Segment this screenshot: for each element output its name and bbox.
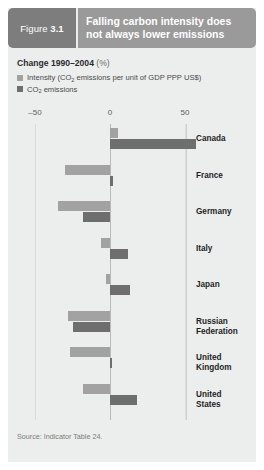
x-axis-tick-labels: –50050	[0, 108, 264, 120]
legend-swatch-co2-icon	[17, 86, 23, 92]
gridline-0	[35, 124, 36, 420]
bar-intensity	[110, 128, 118, 138]
bar-intensity	[106, 274, 111, 284]
bar-intensity	[83, 384, 110, 394]
category-label: France	[196, 171, 223, 181]
figure-tag-prefix: Figure	[20, 23, 48, 34]
zero-line	[110, 124, 111, 420]
figure-header: Figure 3.1 Falling carbon intensity does…	[8, 8, 256, 48]
chart-plot-area: CanadaFranceGermanyItalyJapanRussianFede…	[0, 124, 264, 420]
category-label: Italy	[196, 244, 212, 254]
bar-co2	[110, 249, 128, 259]
category-label: UnitedStates	[196, 390, 221, 410]
bar-intensity	[58, 201, 111, 211]
bar-co2	[83, 212, 110, 222]
bar-co2	[110, 139, 196, 149]
legend-title: Change 1990–2004 (%)	[17, 58, 249, 68]
figure-tag-number: 3.1	[50, 23, 64, 34]
x-axis-tick-2: 50	[181, 108, 190, 117]
category-label: RussianFederation	[196, 317, 238, 337]
legend-label-intensity: Intensity (CO2 emissions per unit of GDP…	[27, 73, 201, 82]
bar-co2	[110, 358, 112, 368]
category-label: Canada	[196, 134, 226, 144]
bar-co2	[110, 285, 130, 295]
x-axis-tick-1: 0	[108, 108, 112, 117]
figure-page: Figure 3.1 Falling carbon intensity does…	[0, 0, 264, 470]
source-note: Source: Indicator Table 24.	[17, 432, 102, 441]
legend-swatch-intensity-icon	[17, 75, 23, 81]
bar-co2	[110, 176, 113, 186]
x-axis-tick-0: –50	[28, 108, 41, 117]
bar-intensity	[101, 238, 110, 248]
legend-title-main: Change 1990–2004	[17, 58, 94, 68]
gridline-2	[185, 124, 186, 420]
legend-item-intensity: Intensity (CO2 emissions per unit of GDP…	[17, 73, 249, 82]
legend-title-unit: (%)	[96, 58, 109, 68]
category-label: Germany	[196, 207, 232, 217]
figure-title: Falling carbon intensity does not always…	[78, 8, 256, 48]
bar-co2	[110, 395, 137, 405]
legend-label-co2: CO2 emissions	[27, 85, 77, 94]
bar-intensity	[68, 311, 110, 321]
category-label: Japan	[196, 280, 220, 290]
bar-intensity	[70, 347, 111, 357]
figure-number-tag: Figure 3.1	[8, 8, 76, 48]
chart-legend: Change 1990–2004 (%) Intensity (CO2 emis…	[17, 58, 249, 94]
plot-right-divider	[186, 124, 187, 420]
legend-item-co2: CO2 emissions	[17, 85, 249, 94]
bar-intensity	[65, 165, 110, 175]
bar-co2	[73, 322, 111, 332]
category-label: UnitedKingdom	[196, 353, 231, 373]
